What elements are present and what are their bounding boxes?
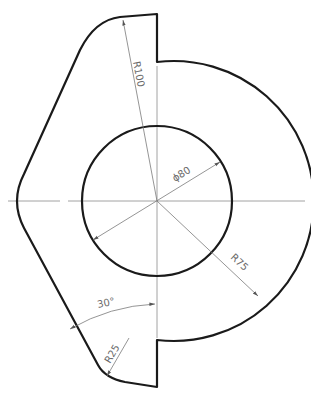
drawing-canvas: R100 ϕ80 R75 30° R25: [0, 0, 311, 405]
angle30-dimension: 30°: [70, 296, 155, 329]
r100-dimension: R100: [123, 20, 157, 201]
r100-label: R100: [131, 60, 147, 88]
r75-dimension: R75: [157, 201, 258, 296]
angle30-label: 30°: [96, 296, 116, 310]
center-lines: [8, 66, 305, 338]
part-outline: [17, 14, 311, 387]
r25-label: R25: [102, 342, 121, 365]
r25-dimension: R25: [102, 338, 129, 376]
r75-label: R75: [229, 251, 251, 272]
